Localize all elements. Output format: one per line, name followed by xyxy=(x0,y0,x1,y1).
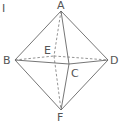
edge-cd xyxy=(69,60,108,64)
vertex-label-d: D xyxy=(110,54,118,67)
vertex-label-f: F xyxy=(57,111,63,122)
vertex-label-c: C xyxy=(71,67,79,80)
edge-ab xyxy=(15,11,61,60)
vertex-label-a: A xyxy=(57,0,65,12)
edge-ef xyxy=(54,56,61,110)
vertex-label-e: E xyxy=(44,44,51,57)
edge-bc xyxy=(15,60,69,64)
octahedron-diagram: I A B C D E F xyxy=(0,0,125,122)
edge-ad xyxy=(61,11,108,60)
edge-bf xyxy=(15,60,61,110)
edge-ac xyxy=(61,11,69,64)
edge-ed xyxy=(54,56,108,60)
vertex-label-b: B xyxy=(3,54,11,67)
figure-label: I xyxy=(2,2,5,15)
